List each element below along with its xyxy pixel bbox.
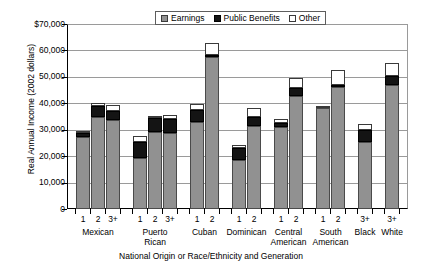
bar-segment-public-benefits — [289, 88, 303, 96]
generation-label: 2 — [199, 215, 225, 224]
x-axis-tick-mark — [315, 209, 316, 214]
bar-cuban-gen-2 — [205, 43, 219, 210]
generation-label: 2 — [241, 215, 267, 224]
legend-swatch-icon — [214, 15, 221, 22]
x-axis-tick-mark — [330, 209, 331, 214]
bar-segment-public-benefits — [232, 148, 246, 160]
bar-series-container — [68, 24, 407, 209]
x-axis-tick-mark — [120, 209, 121, 214]
legend-label: Other — [299, 14, 320, 23]
chart-container: Real Annual Income (2002 dollars) $70,00… — [0, 0, 422, 276]
generation-label: 3+ — [379, 215, 405, 224]
bar-mexican-gen-3plus — [106, 105, 120, 209]
bar-central-american-gen-2 — [289, 78, 303, 209]
chart-legend: EarningsPublic BenefitsOther — [155, 11, 326, 25]
legend-item-public-benefits: Public Benefits — [214, 14, 280, 23]
bar-segment-other — [76, 131, 90, 133]
bar-segment-other — [385, 63, 399, 76]
y-axis-tick-label: $70,000 — [9, 20, 65, 28]
bar-segment-earnings — [289, 96, 303, 209]
y-axis-tick-label: 10,000 — [9, 178, 65, 186]
bar-segment-public-benefits — [76, 133, 90, 137]
bar-white-gen-3plus — [385, 63, 399, 209]
bar-segment-earnings — [358, 142, 372, 209]
bar-segment-public-benefits — [106, 111, 120, 120]
x-axis-tick-mark — [105, 209, 106, 214]
generation-label: 3+ — [352, 215, 378, 224]
y-axis-tick-label: 60,000 — [9, 46, 65, 54]
generation-label: 2 — [325, 215, 351, 224]
x-axis-tick-mark — [261, 209, 262, 214]
bar-segment-earnings — [76, 137, 90, 209]
bar-segment-public-benefits — [190, 110, 204, 122]
x-axis-title: National Origin or Race/Ethnicity and Ge… — [0, 251, 422, 261]
x-axis-tick-mark — [246, 209, 247, 214]
bar-mexican-gen-2 — [91, 103, 105, 210]
bar-black-gen-3plus — [358, 124, 372, 209]
bar-central-american-gen-1 — [274, 119, 288, 209]
bar-mexican-gen-1 — [76, 131, 90, 209]
bar-segment-earnings — [331, 87, 345, 209]
bar-segment-other — [106, 105, 120, 111]
bar-segment-earnings — [232, 160, 246, 209]
x-axis-tick-mark — [177, 209, 178, 214]
bar-segment-other — [316, 106, 330, 108]
bar-segment-public-benefits — [133, 142, 147, 158]
x-axis-tick-mark — [219, 209, 220, 214]
legend-swatch-icon — [161, 15, 168, 22]
y-axis-tick-label: 0 — [9, 205, 65, 213]
bar-segment-earnings — [106, 120, 120, 209]
bar-segment-other — [274, 119, 288, 123]
x-axis-tick-mark — [231, 209, 232, 214]
x-axis-tick-mark — [90, 209, 91, 214]
bar-segment-other — [190, 104, 204, 111]
bar-south-american-gen-2 — [331, 70, 345, 209]
bar-segment-public-benefits — [148, 118, 162, 132]
bar-segment-other — [232, 145, 246, 148]
bar-segment-public-benefits — [274, 123, 288, 127]
bar-segment-earnings — [385, 85, 399, 209]
y-axis-tick-label: 20,000 — [9, 152, 65, 160]
x-axis-tick-mark — [204, 209, 205, 214]
x-axis-tick-mark — [345, 209, 346, 214]
x-axis-tick-mark — [399, 209, 400, 214]
legend-label: Public Benefits — [224, 14, 280, 23]
bar-segment-public-benefits — [247, 117, 261, 126]
x-axis-tick-mark — [357, 209, 358, 214]
bar-segment-public-benefits — [358, 130, 372, 142]
bar-segment-public-benefits — [385, 76, 399, 85]
bar-dominican-gen-1 — [232, 145, 246, 209]
legend-item-other: Other — [289, 14, 320, 23]
bar-segment-other — [205, 43, 219, 55]
bar-segment-earnings — [274, 127, 288, 209]
bar-segment-other — [148, 116, 162, 119]
bar-puerto-rican-gen-3plus — [163, 115, 177, 209]
bar-segment-other — [163, 115, 177, 120]
x-axis-tick-mark — [372, 209, 373, 214]
bar-segment-earnings — [190, 122, 204, 209]
bar-segment-earnings — [247, 126, 261, 209]
x-axis-tick-mark — [384, 209, 385, 214]
x-axis-tick-mark — [162, 209, 163, 214]
bar-segment-earnings — [133, 158, 147, 209]
legend-swatch-icon — [289, 15, 296, 22]
bar-segment-other — [133, 136, 147, 142]
bar-segment-other — [358, 124, 372, 131]
generation-label: 3+ — [100, 215, 126, 224]
group-label-white: White — [359, 228, 422, 238]
generation-label: 3+ — [157, 215, 183, 224]
x-axis-tick-mark — [189, 209, 190, 214]
bar-puerto-rican-gen-1 — [133, 136, 147, 209]
x-axis-tick-mark — [147, 209, 148, 214]
bar-segment-public-benefits — [91, 106, 105, 117]
bar-segment-earnings — [91, 117, 105, 209]
bar-segment-public-benefits — [163, 119, 177, 132]
bar-south-american-gen-1 — [316, 107, 330, 209]
bar-segment-other — [91, 103, 105, 107]
legend-label: Earnings — [171, 14, 205, 23]
bar-segment-earnings — [163, 133, 177, 209]
x-axis-tick-mark — [273, 209, 274, 214]
bar-segment-other — [331, 70, 345, 85]
x-axis-tick-mark — [75, 209, 76, 214]
x-axis-tick-mark — [303, 209, 304, 214]
